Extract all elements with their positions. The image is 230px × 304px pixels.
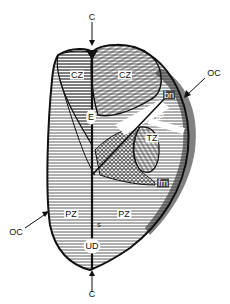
label-s-upper: s <box>138 114 142 121</box>
label-pz-right: PZ <box>117 210 131 219</box>
prostate-zone-diagram <box>0 0 230 304</box>
label-tz: TZ <box>146 134 159 143</box>
label-c-bottom: C <box>89 290 96 299</box>
label-ud: UD <box>84 239 101 254</box>
label-s-lower: s <box>97 221 101 228</box>
label-up: UP <box>152 113 165 122</box>
arrow-oc-right <box>188 78 205 94</box>
label-cz-left: CZ <box>70 71 84 80</box>
label-pz-left: PZ <box>64 210 78 219</box>
label-cz-right: CZ <box>118 71 132 80</box>
label-e: E <box>86 110 96 125</box>
label-oc-left: OC <box>9 228 23 237</box>
arrow-oc-left <box>25 213 47 228</box>
label-fm: fm <box>157 179 169 188</box>
label-oc-right: OC <box>207 69 221 78</box>
label-bn: bn <box>163 91 175 100</box>
label-c-top: C <box>89 13 96 22</box>
